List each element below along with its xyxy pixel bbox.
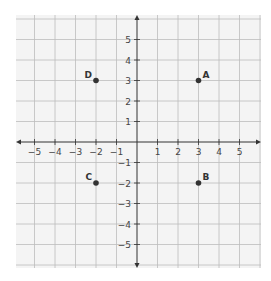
x-tick-label: −1 xyxy=(110,147,123,157)
point-label: C xyxy=(85,172,92,182)
y-tick-label: 2 xyxy=(125,97,131,107)
point-label: D xyxy=(85,70,92,80)
x-tick-label: −3 xyxy=(69,147,82,157)
y-tick-label: 3 xyxy=(125,76,131,86)
x-tick-label: 4 xyxy=(216,147,222,157)
y-tick-label: 5 xyxy=(125,35,131,45)
point-marker-icon xyxy=(196,78,202,84)
x-tick-label: 3 xyxy=(196,147,202,157)
x-tick-label: 1 xyxy=(155,147,161,157)
point-marker-icon xyxy=(93,78,99,84)
y-tick-label: −4 xyxy=(118,220,132,230)
y-tick-label: 1 xyxy=(125,117,131,127)
y-tick-label: −5 xyxy=(118,240,131,250)
y-tick-label: −2 xyxy=(118,179,131,189)
point-marker-icon xyxy=(93,180,99,186)
y-tick-label: −3 xyxy=(118,199,131,209)
x-tick-label: 5 xyxy=(237,147,243,157)
x-tick-label: 2 xyxy=(175,147,181,157)
x-tick-label: −5 xyxy=(28,147,41,157)
point-label: A xyxy=(203,70,210,80)
point-marker-icon xyxy=(196,180,202,186)
y-tick-label: 4 xyxy=(125,56,131,66)
x-tick-label: −2 xyxy=(89,147,102,157)
coordinate-plane: −5−4−3−2−112345 54321−1−2−3−4−5 ABCD xyxy=(0,0,271,281)
x-tick-label: −4 xyxy=(48,147,62,157)
point-label: B xyxy=(203,172,210,182)
y-tick-label: −1 xyxy=(118,158,131,168)
